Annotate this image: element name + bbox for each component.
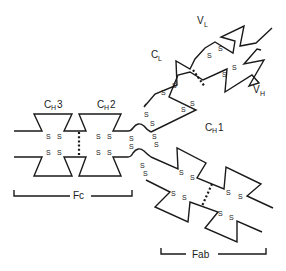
svg-text:S: S	[161, 89, 166, 96]
svg-text:S: S	[140, 162, 145, 169]
svg-text:S: S	[238, 193, 243, 200]
svg-text:S: S	[107, 133, 112, 140]
svg-text:S: S	[190, 174, 195, 181]
svg-text:V: V	[197, 15, 204, 26]
lower-fab-light-chain	[146, 180, 262, 242]
svg-text:S: S	[152, 133, 157, 140]
svg-text:H: H	[51, 104, 56, 111]
svg-text:S: S	[57, 149, 62, 156]
svg-text:S: S	[222, 71, 227, 78]
svg-text:S: S	[96, 133, 101, 140]
svg-text:S: S	[129, 135, 134, 142]
svg-text:H: H	[212, 127, 217, 134]
svg-text:Fc: Fc	[73, 190, 84, 201]
svg-text:1: 1	[218, 122, 224, 133]
svg-text:S: S	[179, 169, 184, 176]
svg-text:H: H	[260, 90, 265, 97]
label-vh: V H	[253, 84, 265, 97]
svg-text:S: S	[181, 106, 186, 113]
upper-fab-heavy-chain	[151, 49, 264, 132]
fc-bracket: Fc	[14, 190, 132, 201]
antibody-diagram: S S S S S S S S S S S S S S S S S S S S …	[0, 0, 286, 271]
hinge-region: S S S S S S S S	[128, 111, 159, 177]
svg-text:S: S	[46, 149, 51, 156]
svg-text:2: 2	[110, 99, 116, 110]
svg-text:S: S	[172, 82, 177, 89]
svg-text:L: L	[158, 55, 162, 62]
svg-text:S: S	[129, 143, 134, 150]
svg-text:S: S	[218, 45, 223, 52]
svg-text:S: S	[144, 111, 149, 118]
svg-text:S: S	[96, 149, 101, 156]
svg-text:S: S	[46, 133, 51, 140]
svg-text:S: S	[143, 170, 148, 177]
label-ch3: C H 3	[44, 99, 63, 111]
svg-text:S: S	[182, 194, 187, 201]
lower-fab-disulfide-bridge	[202, 184, 212, 206]
svg-text:Fab: Fab	[192, 249, 210, 260]
svg-text:H: H	[104, 104, 109, 111]
svg-text:3: 3	[57, 99, 63, 110]
svg-text:L: L	[204, 21, 208, 28]
svg-text:S: S	[229, 214, 234, 221]
lower-fab-disulfide-labels: S S S S S S S S	[171, 169, 243, 221]
label-ch1: C H 1	[205, 122, 224, 134]
label-ch2: C H 2	[97, 99, 116, 111]
svg-text:V: V	[253, 84, 260, 95]
svg-text:S: S	[107, 149, 112, 156]
lower-fab-heavy-chain	[151, 148, 273, 208]
svg-text:S: S	[232, 64, 237, 71]
svg-text:S: S	[154, 141, 159, 148]
fc-upper-chain	[14, 114, 128, 131]
svg-text:S: S	[150, 120, 155, 127]
label-cl: C L	[151, 49, 162, 62]
svg-text:S: S	[190, 100, 195, 107]
svg-text:S: S	[207, 52, 212, 59]
label-vl: V L	[197, 15, 208, 28]
svg-text:S: S	[57, 133, 62, 140]
svg-text:S: S	[171, 190, 176, 197]
svg-text:S: S	[226, 189, 231, 196]
fc-lower-chain	[14, 157, 128, 176]
svg-text:S: S	[218, 210, 223, 217]
upper-fab-disulfide-bridge	[193, 70, 205, 87]
fab-bracket: Fab	[161, 248, 266, 260]
